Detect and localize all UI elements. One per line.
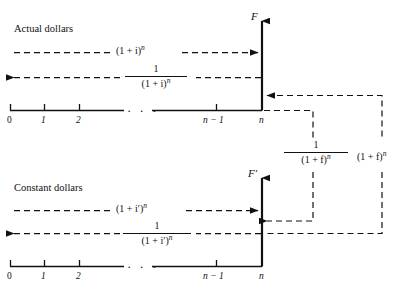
constant-forward-factor-base: (1 + i′): [116, 203, 143, 214]
actual-inverse-numerator: 1: [125, 64, 187, 75]
inflate-factor-label: (1 + f)n: [354, 152, 389, 162]
actual-inverse-factor-label: 1 (1 + i)n: [122, 64, 190, 89]
actual-inverse-denominator: (1 + i)n: [125, 78, 187, 90]
fraction-bar: [125, 76, 187, 77]
constant-forward-factor-exponent: n: [143, 201, 147, 210]
actual-timeline-ellipsis: · · ·: [127, 104, 159, 117]
constant-dollars-title: Constant dollars: [14, 183, 83, 194]
constant-inverse-numerator: 1: [123, 221, 191, 232]
deflate-factor-label: 1 (1 + f)n: [281, 140, 351, 165]
fraction-bar: [284, 152, 348, 153]
constant-tick-label-0: 0: [7, 272, 12, 282]
actual-tick-label-n: n: [259, 116, 264, 126]
constant-tick-label-2: 2: [76, 272, 81, 282]
actual-tick-label-1: 1: [41, 116, 46, 126]
constant-timeline-ellipsis: · · ·: [127, 260, 159, 273]
actual-forward-factor-exponent: n: [141, 43, 145, 52]
actual-forward-factor-base: (1 + i): [116, 45, 141, 56]
constant-tick-label-n-minus-1: n − 1: [203, 272, 224, 282]
inflate-factor-base: (1 + f): [357, 151, 383, 162]
constant-forward-factor-label: (1 + i′)n: [113, 204, 150, 214]
deflate-denominator: (1 + f)n: [284, 154, 348, 166]
constant-tick-label-n: n: [259, 272, 264, 282]
constant-inverse-denominator: (1 + i′)n: [123, 235, 191, 247]
actual-future-value-label: F: [251, 11, 258, 22]
actual-dollars-title: Actual dollars: [14, 24, 73, 35]
actual-tick-label-n-minus-1: n − 1: [203, 116, 224, 126]
constant-future-value-label: F′: [248, 168, 257, 179]
actual-tick-label-2: 2: [76, 116, 81, 126]
constant-tick-label-1: 1: [41, 272, 46, 282]
constant-inverse-factor-label: 1 (1 + i′)n: [120, 221, 194, 246]
deflate-numerator: 1: [284, 140, 348, 151]
deflate-link-path: [264, 111, 313, 222]
cash-flow-diagram: Actual dollars F (1 + i)n 1 (1 + i)n · ·…: [0, 0, 401, 297]
actual-forward-factor-label: (1 + i)n: [113, 46, 148, 56]
actual-tick-label-0: 0: [7, 116, 12, 126]
fraction-bar: [123, 233, 191, 234]
inflate-factor-exponent: n: [383, 149, 387, 158]
